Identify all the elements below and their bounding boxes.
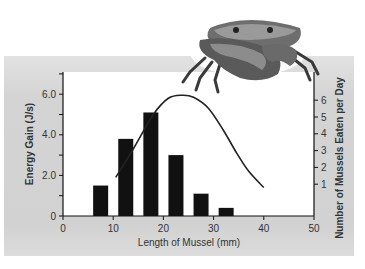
y-tick-label: 0 [50, 211, 56, 222]
bar [194, 194, 209, 216]
y-ticks-right: 123456 [314, 95, 327, 190]
y2-tick-label: 2 [321, 162, 327, 173]
y2-tick-label: 3 [321, 145, 327, 156]
bar [93, 186, 108, 216]
y-tick-label: 4.0 [42, 129, 56, 140]
x-tick-label: 50 [308, 223, 320, 234]
x-tick-label: 30 [208, 223, 220, 234]
y2-axis-title: Number of Mussels Eaten per Day [334, 77, 345, 239]
x-ticks: 01020304050 [60, 216, 320, 234]
x-tick-label: 40 [258, 223, 270, 234]
y-tick-label: 2.0 [42, 170, 56, 181]
bar [219, 208, 234, 216]
bar [168, 155, 183, 216]
y-ticks-left: 02.04.06.0 [42, 74, 63, 222]
y2-tick-label: 5 [321, 112, 327, 123]
y-axis-title: Energy Gain (J/s) [24, 103, 35, 185]
x-tick-label: 0 [60, 223, 66, 234]
y2-tick-label: 6 [321, 95, 327, 106]
x-tick-label: 10 [108, 223, 120, 234]
y2-tick-label: 1 [321, 179, 327, 190]
x-axis-title: Length of Mussel (mm) [138, 237, 240, 248]
chart: 01020304050 02.04.06.0 123456 Length of … [0, 0, 365, 269]
y-tick-label: 6.0 [42, 89, 56, 100]
bar [118, 139, 133, 216]
y2-tick-label: 4 [321, 128, 327, 139]
x-tick-label: 20 [158, 223, 170, 234]
